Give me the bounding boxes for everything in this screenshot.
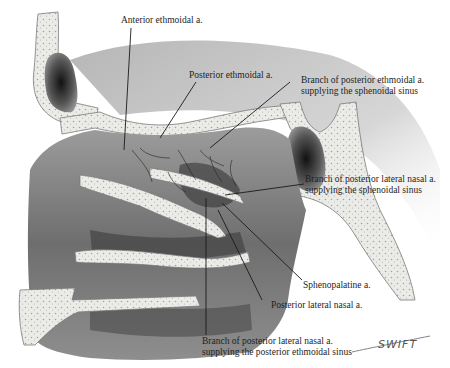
label-branch-posterior-lateral-nasal-ethmoidal: Branch of posterior lateral nasal a. sup… [202,336,352,358]
label-sphenopalatine-artery: Sphenopalatine a. [303,280,371,291]
label-line: Anterior ethmoidal a. [121,15,203,25]
artist-signature: SWIFT [378,338,417,351]
label-posterior-lateral-nasal-artery: Posterior lateral nasal a. [271,300,362,311]
label-line: supplying the sphenoidal sinus [305,185,436,196]
label-line: supplying the sphenoidal sinus [301,86,424,97]
label-line: Sphenopalatine a. [303,280,371,290]
label-line: Branch of posterior lateral nasal a. [202,336,352,347]
label-anterior-ethmoidal-artery: Anterior ethmoidal a. [121,15,203,26]
label-line: Branch of posterior lateral nasal a. [305,174,436,185]
label-branch-posterior-ethmoidal-sphenoidal: Branch of posterior ethmoidal a. supplyi… [301,75,424,97]
label-posterior-ethmoidal-artery: Posterior ethmoidal a. [189,70,273,81]
label-line: Branch of posterior ethmoidal a. [301,75,424,86]
label-line: Posterior lateral nasal a. [271,300,362,310]
label-line: Posterior ethmoidal a. [189,70,273,80]
label-line: supplying the posterior ethmoidal sinus [202,347,352,358]
label-branch-posterior-lateral-nasal-sphenoidal: Branch of posterior lateral nasal a. sup… [305,174,436,196]
